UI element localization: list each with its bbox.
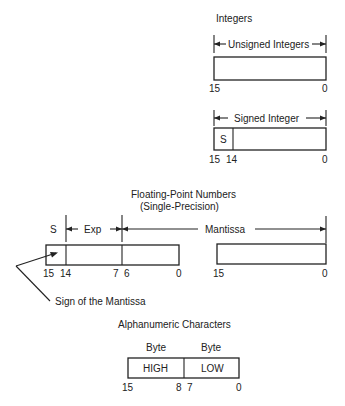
unsigned-integer-word bbox=[214, 57, 326, 80]
float-mantissa-label: Mantissa bbox=[205, 224, 245, 235]
float-w1-bit-15: 15 bbox=[43, 268, 55, 279]
signed-integer-word bbox=[214, 128, 326, 150]
byte-high-label: Byte bbox=[146, 342, 166, 353]
signed-integer-span: Signed Integer bbox=[214, 110, 326, 126]
float-w1-bit-0: 0 bbox=[176, 268, 182, 279]
float-w2-bit-0: 0 bbox=[322, 268, 328, 279]
floating-point-subtitle: (Single-Precision) bbox=[140, 201, 219, 212]
byte-low-label: Byte bbox=[201, 342, 221, 353]
integers-title: Integers bbox=[216, 13, 252, 24]
signed-integer-label: Signed Integer bbox=[234, 113, 300, 124]
float-w1-bit-6: 6 bbox=[124, 268, 130, 279]
sign-callout-label: Sign of the Mantissa bbox=[55, 296, 146, 307]
float-exp-label: Exp bbox=[84, 224, 102, 235]
float-word-2 bbox=[217, 244, 326, 264]
alpha-bit-15: 15 bbox=[122, 382, 134, 393]
unsigned-bit-0: 0 bbox=[322, 83, 328, 94]
signed-bit-0: 0 bbox=[322, 154, 328, 165]
low-byte-field: LOW bbox=[201, 363, 224, 374]
data-formats-diagram: Integers Unsigned Integers 15 0 Signed I… bbox=[0, 0, 345, 406]
high-byte-field: HIGH bbox=[143, 363, 168, 374]
float-field-spans: S Exp Mantissa bbox=[50, 215, 326, 243]
signed-sign-field: S bbox=[220, 134, 227, 145]
float-w2-bit-15: 15 bbox=[213, 268, 225, 279]
alphanumeric-title: Alphanumeric Characters bbox=[118, 319, 231, 330]
unsigned-bit-15: 15 bbox=[209, 83, 221, 94]
callout-arrowhead-icon bbox=[50, 252, 58, 258]
signed-bit-14: 14 bbox=[226, 154, 238, 165]
unsigned-integer-span: Unsigned Integers bbox=[214, 35, 326, 53]
sign-callout: Sign of the Mantissa bbox=[16, 252, 146, 307]
signed-bit-15: 15 bbox=[209, 154, 221, 165]
float-w1-bit-14: 14 bbox=[60, 268, 72, 279]
float-w1-bit-7: 7 bbox=[113, 268, 119, 279]
float-sign-label: S bbox=[50, 224, 57, 235]
unsigned-integer-label: Unsigned Integers bbox=[228, 39, 309, 50]
alpha-bit-8: 8 bbox=[176, 382, 182, 393]
alpha-bit-7: 7 bbox=[187, 382, 193, 393]
alpha-bit-0: 0 bbox=[236, 382, 242, 393]
floating-point-title: Floating-Point Numbers bbox=[131, 189, 236, 200]
